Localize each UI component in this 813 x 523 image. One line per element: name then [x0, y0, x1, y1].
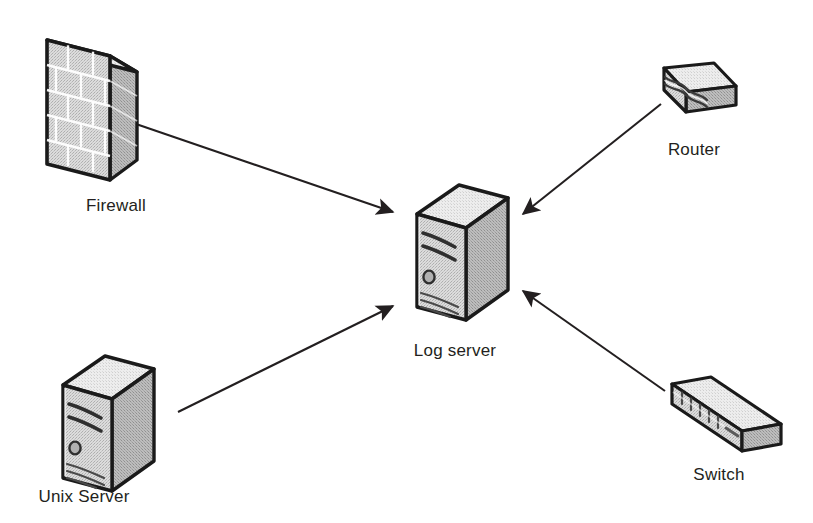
connection-unix-server-to-log-server: [178, 306, 393, 412]
router-icon[interactable]: [664, 63, 736, 112]
connection-router-to-log-server: [523, 104, 661, 214]
diagram-svg-layer: [0, 0, 813, 523]
connection-lines-group: [136, 104, 665, 412]
connection-firewall-to-log-server: [136, 124, 393, 212]
server-tower-icon-log-server[interactable]: [417, 185, 508, 320]
server-tower-icon-unix-server[interactable]: [63, 356, 154, 491]
switch-icon[interactable]: [672, 377, 781, 451]
firewall-brick-wall-icon[interactable]: [47, 40, 137, 180]
connection-switch-to-log-server: [523, 291, 665, 391]
node-label-router: Router: [668, 140, 720, 160]
node-label-firewall: Firewall: [86, 196, 146, 216]
network-diagram-canvas: Firewall Router Log server Unix Server S…: [0, 0, 813, 523]
node-label-log-server: Log server: [414, 341, 496, 361]
node-label-switch: Switch: [693, 465, 744, 485]
node-label-unix-server: Unix Server: [38, 487, 129, 507]
